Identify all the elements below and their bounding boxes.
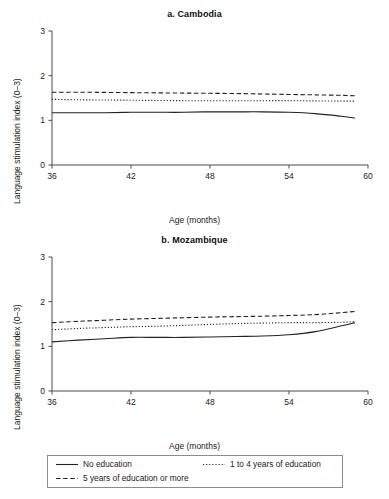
x-tick-label-mozambique: 36	[47, 397, 57, 407]
x-tick-label-cambodia: 42	[126, 171, 136, 181]
x-tick-label-mozambique: 54	[284, 397, 294, 407]
legend-label-1-to-4-years: 1 to 4 years of education	[230, 460, 321, 469]
panel-mozambique: b. Mozambique Language stimulation index…	[0, 230, 389, 455]
x-tick-label-mozambique: 48	[205, 397, 215, 407]
x-tick-label-mozambique: 42	[126, 397, 136, 407]
panel-title-mozambique: b. Mozambique	[0, 230, 389, 245]
legend-swatch-solid-icon	[56, 460, 78, 469]
y-axis-label-mozambique: Language stimulation index (0–3)	[12, 304, 22, 430]
legend-swatch-dotted-icon	[203, 460, 225, 469]
legend-swatch-dashed-icon	[56, 474, 78, 483]
y-tick-label-cambodia: 3	[40, 26, 45, 36]
y-tick-label-mozambique: 1	[40, 341, 45, 351]
y-tick-label-mozambique: 2	[40, 297, 45, 307]
x-tick-label-cambodia: 60	[363, 171, 373, 181]
y-tick-label-mozambique: 3	[40, 252, 45, 262]
panel-cambodia: a. Cambodia Language stimulation index (…	[0, 0, 389, 230]
x-axis-label-cambodia: Age (months)	[0, 215, 389, 225]
legend-item-no-education: No education	[56, 460, 132, 469]
x-axis-label-mozambique: Age (months)	[0, 441, 389, 451]
legend: No education 1 to 4 years of education 5…	[47, 455, 343, 488]
legend-item-5-years-or-more: 5 years of education or more	[56, 474, 189, 483]
chart-svg-cambodia: 01233642485460	[0, 19, 389, 194]
plot-area-cambodia: Language stimulation index (0–3) 0123364…	[0, 19, 389, 194]
series-line-solid-cambodia	[52, 112, 355, 118]
legend-label-no-education: No education	[83, 460, 132, 469]
series-line-dashed-cambodia	[52, 92, 355, 96]
x-tick-label-cambodia: 54	[284, 171, 294, 181]
legend-label-5-years-or-more: 5 years of education or more	[83, 474, 189, 483]
series-line-dashed-mozambique	[52, 311, 355, 322]
y-tick-label-cambodia: 1	[40, 115, 45, 125]
series-line-dotted-cambodia	[52, 99, 355, 101]
y-axis-label-cambodia: Language stimulation index (0–3)	[12, 78, 22, 204]
series-line-dotted-mozambique	[52, 322, 355, 330]
y-tick-label-mozambique: 0	[40, 386, 45, 396]
x-tick-label-mozambique: 60	[363, 397, 373, 407]
panel-title-cambodia: a. Cambodia	[0, 0, 389, 19]
plot-area-mozambique: Language stimulation index (0–3) 0123364…	[0, 245, 389, 420]
series-line-solid-mozambique	[52, 323, 355, 342]
y-tick-label-cambodia: 2	[40, 71, 45, 81]
x-tick-label-cambodia: 48	[205, 171, 215, 181]
chart-svg-mozambique: 01233642485460	[0, 245, 389, 420]
legend-item-1-to-4-years: 1 to 4 years of education	[203, 460, 321, 469]
y-tick-label-cambodia: 0	[40, 160, 45, 170]
x-tick-label-cambodia: 36	[47, 171, 57, 181]
